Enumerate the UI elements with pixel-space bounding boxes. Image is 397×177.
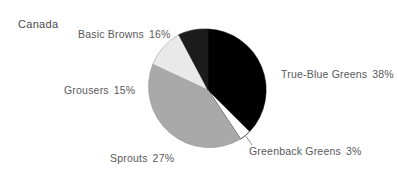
slice-label-basic-browns-value: 16% [149,28,171,40]
slice-label-grousers-text: Grousers [64,84,109,96]
slice-label-true-blue-greens-text: True-Blue Greens [281,68,367,80]
slice-label-sprouts-text: Sprouts [110,152,148,164]
pie-chart-figure: Canada Basic Browns16% True-Blue Greens3… [0,0,397,177]
slice-label-basic-browns: Basic Browns16% [78,29,171,41]
slice-label-sprouts-value: 27% [153,152,175,164]
slice-label-true-blue-greens-value: 38% [372,68,394,80]
slice-label-grousers: Grousers15% [64,85,135,97]
pie-slices [149,29,267,148]
slice-label-greenback-greens: Greenback Greens3% [249,146,362,158]
pie-leader-lines [245,135,252,145]
slice-label-greenback-greens-value: 3% [346,145,362,157]
slice-label-sprouts: Sprouts27% [110,153,174,165]
slice-label-true-blue-greens: True-Blue Greens38% [281,69,394,81]
slice-label-basic-browns-text: Basic Browns [78,28,144,40]
slice-label-greenback-greens-text: Greenback Greens [249,145,341,157]
slice-label-grousers-value: 15% [114,84,136,96]
leader-line-greenback-greens [245,135,252,145]
